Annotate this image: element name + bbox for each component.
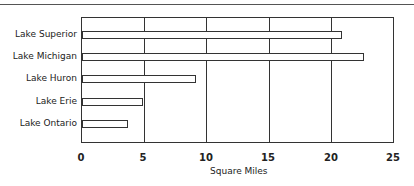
- bar-lake-huron: [82, 75, 196, 83]
- x-tick-label: 0: [78, 152, 85, 163]
- x-axis-label: Square Miles: [210, 166, 268, 176]
- top-rule: [0, 4, 414, 5]
- plot-area: [81, 17, 394, 143]
- bar-lake-erie: [82, 98, 143, 106]
- x-tick-label: 10: [199, 152, 213, 163]
- category-label: Lake Michigan: [13, 51, 77, 61]
- x-tick-label: 5: [140, 152, 147, 163]
- x-tick-label: 15: [261, 152, 275, 163]
- category-label: Lake Huron: [26, 73, 77, 83]
- x-tick-label: 25: [386, 152, 400, 163]
- bar-lake-superior: [82, 31, 342, 39]
- category-label: Lake Ontario: [20, 118, 77, 128]
- category-label: Lake Erie: [36, 96, 77, 106]
- x-tick-label: 20: [324, 152, 338, 163]
- category-label: Lake Superior: [15, 29, 77, 39]
- bar-lake-michigan: [82, 53, 364, 61]
- bar-lake-ontario: [82, 120, 128, 128]
